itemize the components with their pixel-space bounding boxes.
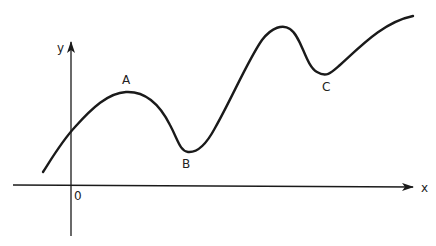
function-graph: y x 0 A B C [0,0,436,246]
point-label-c: C [322,80,330,94]
x-axis [13,185,413,187]
origin-label: 0 [74,189,82,203]
x-axis-label: x [421,181,428,195]
point-label-a: A [122,73,131,87]
point-label-b: B [182,157,190,171]
function-curve [43,16,413,172]
y-axis-label: y [57,41,64,55]
